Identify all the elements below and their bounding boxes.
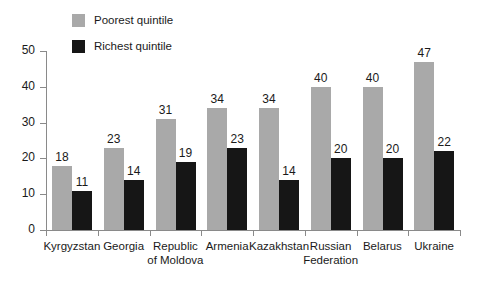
bar-chart: Poorest quintile Richest quintile 010203… bbox=[0, 0, 483, 282]
x-axis-tick bbox=[305, 230, 306, 236]
y-axis-tick: 30 bbox=[40, 123, 46, 124]
bar-richest-quintile: 20 bbox=[331, 158, 351, 230]
y-axis-tick: 50 bbox=[40, 51, 46, 52]
bar-value-label: 11 bbox=[76, 175, 88, 189]
y-axis-tick-label: 30 bbox=[22, 115, 35, 130]
bar-value-label: 20 bbox=[334, 142, 347, 156]
legend-item-poorest-quintile: Poorest quintile bbox=[72, 10, 173, 30]
category-label-line: Ukraine bbox=[404, 239, 464, 253]
y-axis-tick: 10 bbox=[40, 194, 46, 195]
bar-poorest-quintile: 18 bbox=[52, 166, 72, 230]
y-axis-tick-label: 40 bbox=[22, 79, 35, 94]
bar-group: 3423 bbox=[207, 51, 247, 230]
bar-value-label: 14 bbox=[282, 164, 295, 178]
bar-value-label: 34 bbox=[262, 92, 275, 106]
bar-value-label: 40 bbox=[314, 71, 327, 85]
bar-value-label: 22 bbox=[438, 135, 451, 149]
bar-richest-quintile: 14 bbox=[279, 180, 299, 230]
bar-value-label: 19 bbox=[179, 146, 192, 160]
y-axis-tick-label: 0 bbox=[28, 222, 35, 237]
y-axis-line bbox=[46, 51, 47, 230]
bar-value-label: 34 bbox=[211, 92, 224, 106]
category-label-line: of Moldova bbox=[146, 253, 206, 267]
bar-group: 4722 bbox=[414, 51, 454, 230]
y-axis-tick-label: 10 bbox=[22, 186, 35, 201]
legend-swatch-poorest-quintile bbox=[72, 14, 85, 27]
bar-group: 2314 bbox=[104, 51, 144, 230]
bar-value-label: 14 bbox=[127, 164, 140, 178]
bar-richest-quintile: 22 bbox=[434, 151, 454, 230]
x-axis-tick bbox=[98, 230, 99, 236]
bar-group: 4020 bbox=[363, 51, 403, 230]
y-axis-tick: 40 bbox=[40, 87, 46, 88]
bar-value-label: 18 bbox=[55, 150, 68, 164]
bar-value-label: 31 bbox=[159, 103, 172, 117]
bar-poorest-quintile: 34 bbox=[259, 108, 279, 230]
bar-value-label: 40 bbox=[366, 71, 379, 85]
y-axis-tick: 20 bbox=[40, 158, 46, 159]
bar-group: 3119 bbox=[156, 51, 196, 230]
x-axis-tick bbox=[46, 230, 47, 236]
bar-value-label: 23 bbox=[231, 132, 244, 146]
x-axis-tick bbox=[357, 230, 358, 236]
bar-value-label: 47 bbox=[418, 46, 431, 60]
bar-poorest-quintile: 40 bbox=[311, 87, 331, 230]
bar-value-label: 23 bbox=[107, 132, 120, 146]
bar-poorest-quintile: 47 bbox=[414, 62, 434, 230]
bar-poorest-quintile: 40 bbox=[363, 87, 383, 230]
y-axis-tick-label: 50 bbox=[22, 43, 35, 58]
bar-richest-quintile: 20 bbox=[383, 158, 403, 230]
x-axis-tick bbox=[150, 230, 151, 236]
bar-richest-quintile: 19 bbox=[176, 162, 196, 230]
bar-value-label: 20 bbox=[386, 142, 399, 156]
bar-poorest-quintile: 34 bbox=[207, 108, 227, 230]
plot-area: 01020304050 1811231431193423341440204020… bbox=[46, 51, 460, 230]
legend-label-poorest-quintile: Poorest quintile bbox=[94, 14, 173, 27]
x-axis-category-label: Ukraine bbox=[404, 239, 464, 253]
bar-poorest-quintile: 23 bbox=[104, 148, 124, 230]
bar-poorest-quintile: 31 bbox=[156, 119, 176, 230]
bar-richest-quintile: 11 bbox=[72, 191, 92, 230]
bar-group: 4020 bbox=[311, 51, 351, 230]
bar-group: 1811 bbox=[52, 51, 92, 230]
x-axis-tick bbox=[408, 230, 409, 236]
bar-group: 3414 bbox=[259, 51, 299, 230]
bar-richest-quintile: 23 bbox=[227, 148, 247, 230]
y-axis-tick-label: 20 bbox=[22, 150, 35, 165]
x-axis-tick bbox=[253, 230, 254, 236]
x-axis-tick bbox=[201, 230, 202, 236]
category-label-line: Federation bbox=[301, 253, 361, 267]
x-axis-tick bbox=[460, 230, 461, 236]
bar-richest-quintile: 14 bbox=[124, 180, 144, 230]
